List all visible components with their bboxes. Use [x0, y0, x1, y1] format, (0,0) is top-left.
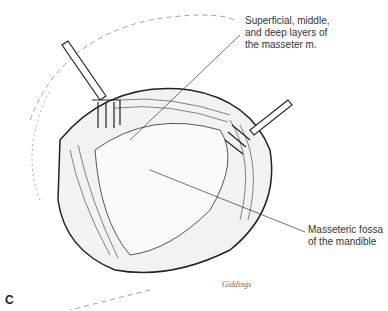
label-line: and deep layers of — [245, 27, 329, 39]
panel-letter: C — [5, 293, 14, 307]
label-line: of the mandible — [308, 236, 383, 248]
artist-signature: Giddings — [222, 280, 251, 289]
label-line: Superficial, middle, — [245, 15, 329, 27]
label-line: Masseteric fossa — [308, 224, 383, 236]
label-line: the masseter m. — [245, 39, 329, 51]
masseteric-fossa-label: Masseteric fossa of the mandible — [308, 224, 383, 248]
masseter-layers-label: Superficial, middle, and deep layers of … — [245, 15, 329, 51]
surgical-illustration: Giddings — [0, 0, 388, 311]
